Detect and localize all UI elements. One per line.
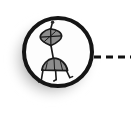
badge-ring-icon — [24, 18, 92, 86]
icon-canvas — [0, 0, 131, 123]
badge-illustration — [0, 0, 131, 123]
